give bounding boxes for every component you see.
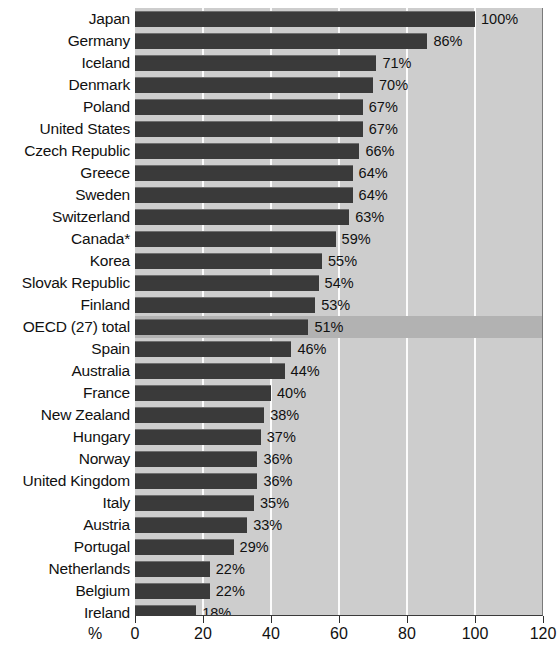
bar-row: 53%: [135, 294, 542, 316]
bar: [135, 363, 285, 379]
category-label: Finland: [0, 294, 130, 316]
bar-row: 70%: [135, 74, 542, 96]
bar-value-label: 37%: [261, 428, 296, 446]
bar-value-label: 29%: [234, 538, 269, 556]
category-label: Sweden: [0, 184, 130, 206]
bar: [135, 561, 210, 577]
bar: [135, 99, 363, 115]
category-label: Portugal: [0, 536, 130, 558]
category-label: France: [0, 382, 130, 404]
bar-row: 29%: [135, 536, 542, 558]
category-label: United States: [0, 118, 130, 140]
category-label: Greece: [0, 162, 130, 184]
bar: [135, 187, 353, 203]
bar: [135, 231, 336, 247]
plot-area: 100%86%71%70%67%67%66%64%64%63%59%55%54%…: [135, 8, 543, 616]
bar-row: 54%: [135, 272, 542, 294]
bar-row: 59%: [135, 228, 542, 250]
bar-row: 35%: [135, 492, 542, 514]
x-axis: 020406080100120: [135, 616, 544, 654]
bar-value-label: 64%: [353, 186, 388, 204]
bar-row: 55%: [135, 250, 542, 272]
bar-value-label: 38%: [264, 406, 299, 424]
bar: [135, 165, 353, 181]
bar: [135, 143, 359, 159]
bar-value-label: 22%: [210, 582, 245, 600]
bar-row: 33%: [135, 514, 542, 536]
bar-value-label: 64%: [353, 164, 388, 182]
bar-row: 36%: [135, 470, 542, 492]
x-axis-tick-label: 40: [262, 625, 280, 643]
bar-value-label: 71%: [376, 54, 411, 72]
bar: [135, 341, 291, 357]
bar: [135, 517, 247, 533]
x-axis-tick: [543, 616, 544, 623]
bar-value-label: 53%: [315, 296, 350, 314]
bar: [135, 605, 196, 616]
bar-value-label: 22%: [210, 560, 245, 578]
bar-value-label: 86%: [427, 32, 462, 50]
bar: [135, 297, 315, 313]
bar-value-label: 55%: [322, 252, 357, 270]
bar: [135, 451, 257, 467]
category-label: Canada*: [0, 228, 130, 250]
bar-row: 38%: [135, 404, 542, 426]
bar: [135, 539, 234, 555]
x-axis-tick: [135, 616, 136, 623]
bar-value-label: 44%: [285, 362, 320, 380]
bar-row: 22%: [135, 558, 542, 580]
bar-row: 100%: [135, 8, 542, 30]
bar-row: 67%: [135, 118, 542, 140]
bar-row: 64%: [135, 184, 542, 206]
bar: [135, 583, 210, 599]
bar-value-label: 46%: [291, 340, 326, 358]
x-axis-unit-label: %: [88, 625, 102, 643]
category-label: Slovak Republic: [0, 272, 130, 294]
bar-row: 67%: [135, 96, 542, 118]
bar-row: 46%: [135, 338, 542, 360]
x-axis-tick: [271, 616, 272, 623]
bar-value-label: 67%: [363, 120, 398, 138]
bar-value-label: 100%: [475, 10, 518, 28]
bar-value-label: 59%: [336, 230, 371, 248]
bar: [135, 11, 475, 27]
bar-rows: 100%86%71%70%67%67%66%64%64%63%59%55%54%…: [135, 8, 542, 615]
category-label: Denmark: [0, 74, 130, 96]
category-label: Korea: [0, 250, 130, 272]
bar: [135, 253, 322, 269]
bar-value-label: 63%: [349, 208, 384, 226]
category-label: Netherlands: [0, 558, 130, 580]
category-label: Norway: [0, 448, 130, 470]
category-label: OECD (27) total: [0, 316, 130, 338]
bar: [135, 33, 427, 49]
category-label: Ireland: [0, 602, 130, 624]
bar-value-label: 40%: [271, 384, 306, 402]
category-label: Australia: [0, 360, 130, 382]
bar: [135, 275, 319, 291]
bar: [135, 77, 373, 93]
category-axis-labels: JapanGermanyIcelandDenmarkPolandUnited S…: [0, 8, 130, 624]
x-axis-tick: [407, 616, 408, 623]
bar-value-label: 35%: [254, 494, 289, 512]
category-label: Spain: [0, 338, 130, 360]
x-axis-tick: [203, 616, 204, 623]
category-label: Italy: [0, 492, 130, 514]
x-axis-tick-label: 120: [530, 625, 557, 643]
category-label: Austria: [0, 514, 130, 536]
bar-value-label: 54%: [319, 274, 354, 292]
bar-row: 64%: [135, 162, 542, 184]
bar-row: 71%: [135, 52, 542, 74]
bar-value-label: 36%: [257, 472, 292, 490]
x-axis-tick-label: 60: [330, 625, 348, 643]
bar: [135, 495, 254, 511]
bar-value-label: 33%: [247, 516, 282, 534]
category-label: Switzerland: [0, 206, 130, 228]
bar-value-label: 36%: [257, 450, 292, 468]
bar-value-label: 70%: [373, 76, 408, 94]
bar-row: 86%: [135, 30, 542, 52]
bar-row: 37%: [135, 426, 542, 448]
bar: [135, 385, 271, 401]
bar-chart: JapanGermanyIcelandDenmarkPolandUnited S…: [0, 0, 557, 654]
bar: [135, 407, 264, 423]
x-axis-tick: [339, 616, 340, 623]
